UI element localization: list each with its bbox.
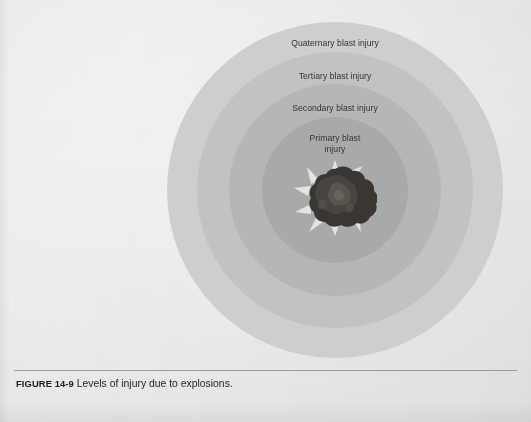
caption-figure-number: FIGURE 14-9	[16, 378, 74, 389]
label-primary-blast-injury: Primary blast injury	[310, 133, 361, 155]
explosion-icon	[293, 160, 377, 236]
label-tertiary-blast-injury: Tertiary blast injury	[299, 71, 372, 82]
figure-caption: FIGURE 14-9 Levels of injury due to expl…	[16, 377, 496, 391]
label-quaternary-blast-injury: Quaternary blast injury	[291, 38, 379, 49]
caption-body-text: Levels of injury due to explosions.	[74, 378, 233, 389]
label-secondary-blast-injury: Secondary blast injury	[292, 103, 378, 114]
concentric-blast-zones	[0, 0, 531, 422]
blast-cloud	[309, 167, 377, 227]
caption-divider	[14, 370, 517, 371]
figure-container: Quaternary blast injury Tertiary blast i…	[0, 0, 531, 422]
